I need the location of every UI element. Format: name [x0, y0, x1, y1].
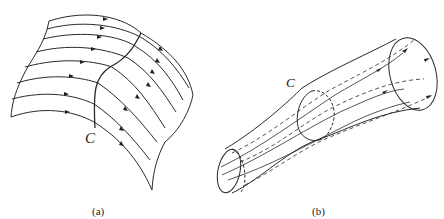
panel-a-vector-surface [11, 15, 193, 190]
panel-b-arrows [376, 48, 432, 99]
arrow-icon [376, 68, 382, 72]
vector-line [228, 102, 410, 180]
vector-line [12, 94, 150, 160]
arrow-icon [135, 94, 140, 99]
arrow-icon [146, 82, 151, 87]
arrow-icon [426, 95, 432, 99]
vector-line-hidden [232, 40, 414, 153]
panel-b-dashed-lines [232, 40, 433, 185]
surface-left-edge [11, 21, 49, 117]
tube-top-edge [225, 39, 396, 149]
vector-line [47, 24, 189, 88]
tube-bottom-edge [232, 108, 420, 193]
arrow-icon [103, 17, 108, 21]
curve-c-label-b: C [286, 75, 295, 91]
surface-right-edge [141, 33, 193, 190]
vector-line [222, 89, 404, 175]
arrow-icon [65, 110, 70, 114]
arrow-icon [91, 47, 96, 51]
panel-b-vector-tube [214, 32, 444, 194]
caption-b: (b) [312, 205, 325, 217]
vector-line [11, 111, 152, 190]
tube-left-end [214, 147, 245, 195]
vector-line [221, 53, 403, 167]
tube-right-end [381, 32, 444, 115]
panel-a-arrows [64, 17, 163, 146]
figure-canvas [0, 0, 444, 219]
vector-line-hidden [240, 79, 424, 162]
vector-line [49, 15, 141, 33]
vector-line-hidden [245, 95, 433, 185]
arrow-icon [100, 26, 105, 30]
curve-c-label-a: C [85, 130, 95, 147]
arrow-icon [80, 60, 85, 64]
vector-line [36, 47, 176, 112]
arrow-icon [402, 48, 408, 53]
curve-c [94, 33, 141, 128]
panel-b-flow-lines [221, 53, 410, 180]
arrow-icon [150, 69, 155, 74]
caption-a: (a) [92, 205, 104, 217]
arrow-icon [424, 58, 430, 62]
